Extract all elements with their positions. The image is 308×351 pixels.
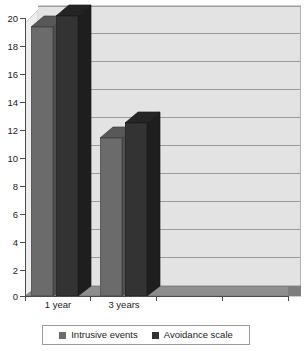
y-tick-2 — [20, 270, 25, 271]
y-tick-8 — [20, 186, 25, 187]
y-tick-label-20: 20 — [7, 14, 18, 23]
y-tick-14 — [20, 102, 25, 103]
y-tick-label-10: 10 — [7, 154, 18, 163]
legend-item-avoidance-scale[interactable]: Avoidance scale — [152, 330, 233, 340]
y-tick-label-18: 18 — [7, 42, 18, 51]
legend-swatch-icon — [152, 332, 159, 339]
legend-label: Avoidance scale — [164, 330, 233, 340]
y-tick-label-14: 14 — [7, 98, 18, 107]
bar-1year-avoidance-scale[interactable] — [56, 0, 92, 305]
y-tick-label-4: 4 — [13, 238, 18, 247]
y-tick-label-2: 2 — [13, 266, 18, 275]
legend-item-intrusive-events[interactable]: Intrusive events — [59, 330, 138, 340]
y-tick-label-16: 16 — [7, 70, 18, 79]
y-tick-label-6: 6 — [13, 210, 18, 219]
chart-legend: Intrusive events Avoidance scale — [42, 325, 250, 345]
bar-chart: 20 18 16 14 12 10 8 6 4 2 0 1 year 3 yea… — [0, 0, 308, 351]
legend-label: Intrusive events — [71, 330, 138, 340]
bar-3years-avoidance-scale[interactable] — [125, 5, 161, 305]
plot-area: 20 18 16 14 12 10 8 6 4 2 0 1 year 3 yea… — [0, 0, 308, 310]
y-tick-label-12: 12 — [7, 126, 18, 135]
y-tick-16 — [20, 74, 25, 75]
y-tick-4 — [20, 242, 25, 243]
x-axis: 1 year 3 years — [0, 297, 308, 315]
bars-layer — [0, 0, 308, 310]
x-axis-label-3years: 3 years — [108, 299, 139, 311]
y-tick-label-8: 8 — [13, 182, 18, 191]
y-axis-line — [25, 18, 26, 296]
y-tick-12 — [20, 130, 25, 131]
y-tick-6 — [20, 214, 25, 215]
y-tick-20 — [20, 18, 25, 19]
legend-swatch-icon — [59, 332, 66, 339]
x-axis-label-1year: 1 year — [45, 299, 71, 311]
y-tick-10 — [20, 158, 25, 159]
y-tick-18 — [20, 46, 25, 47]
